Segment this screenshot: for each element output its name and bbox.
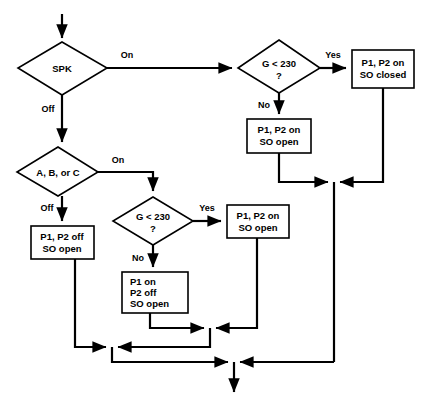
edge-label-spk-off: Off [42, 104, 56, 114]
edge-label-spk-on: On [121, 50, 134, 60]
edge-off-box-to-merge2 [75, 259, 106, 347]
so-closed-line2: SO closed [360, 69, 407, 80]
abc-label: A, B, or C [36, 167, 79, 178]
edge-label-g230-bottom-yes: Yes [199, 203, 215, 213]
g230-bottom-label-line1: G < 230 [136, 211, 170, 222]
flowchart-canvas: SPK G < 230 ? P1, P2 on SO closed P1, P2… [0, 0, 430, 409]
edge-p1on-to-merge1 [150, 313, 204, 328]
edge-label-g230-top-yes: Yes [325, 50, 341, 60]
so-open-bottom-line2: SO open [238, 222, 277, 233]
p1on-box-line3: SO open [130, 298, 169, 309]
node-p1-on-p2-off-so-open[interactable]: P1 on P2 off SO open [122, 272, 188, 313]
node-p1p2-off-so-open[interactable]: P1, P2 off SO open [31, 226, 94, 259]
edge-so-open-bottom-to-merge1 [216, 238, 257, 328]
edge-label-g230-bottom-no: No [132, 253, 144, 263]
edge-label-abc-off: Off [41, 203, 55, 213]
edge-merge1-to-merge2 [118, 328, 210, 347]
g230-top-label-line1: G < 230 [262, 58, 296, 69]
p1on-box-line2: P2 off [130, 287, 157, 298]
off-box-line1: P1, P2 off [40, 231, 84, 242]
edge-abc-on-to-g230-bottom [98, 172, 153, 191]
edge-merge2-to-final [112, 347, 228, 362]
node-g230-top[interactable]: G < 230 ? [238, 40, 320, 93]
so-open-top-line1: P1, P2 on [258, 124, 301, 135]
edge-label-g230-top-no: No [258, 100, 270, 110]
edge-label-abc-on: On [112, 155, 125, 165]
spk-label: SPK [52, 63, 72, 74]
off-box-line2: SO open [42, 243, 81, 254]
node-spk[interactable]: SPK [18, 42, 107, 95]
so-closed-line1: P1, P2 on [362, 57, 405, 68]
node-g230-bottom[interactable]: G < 230 ? [113, 197, 193, 245]
node-p1p2-on-so-open-top[interactable]: P1, P2 on SO open [247, 119, 311, 153]
node-p1p2-on-so-closed[interactable]: P1, P2 on SO closed [352, 50, 414, 88]
so-open-bottom-line1: P1, P2 on [237, 210, 280, 221]
so-open-top-line2: SO open [259, 136, 298, 147]
g230-top-label-line2: ? [276, 70, 282, 81]
node-abc[interactable]: A, B, or C [17, 147, 98, 196]
node-p1p2-on-so-open-bottom[interactable]: P1, P2 on SO open [227, 205, 289, 238]
edge-so-open-top-to-merge [279, 152, 328, 182]
edge-so-closed-to-merge [340, 88, 383, 182]
p1on-box-line1: P1 on [130, 276, 156, 287]
g230-bottom-label-line2: ? [150, 223, 156, 234]
flowchart-svg: SPK G < 230 ? P1, P2 on SO closed P1, P2… [0, 0, 430, 409]
